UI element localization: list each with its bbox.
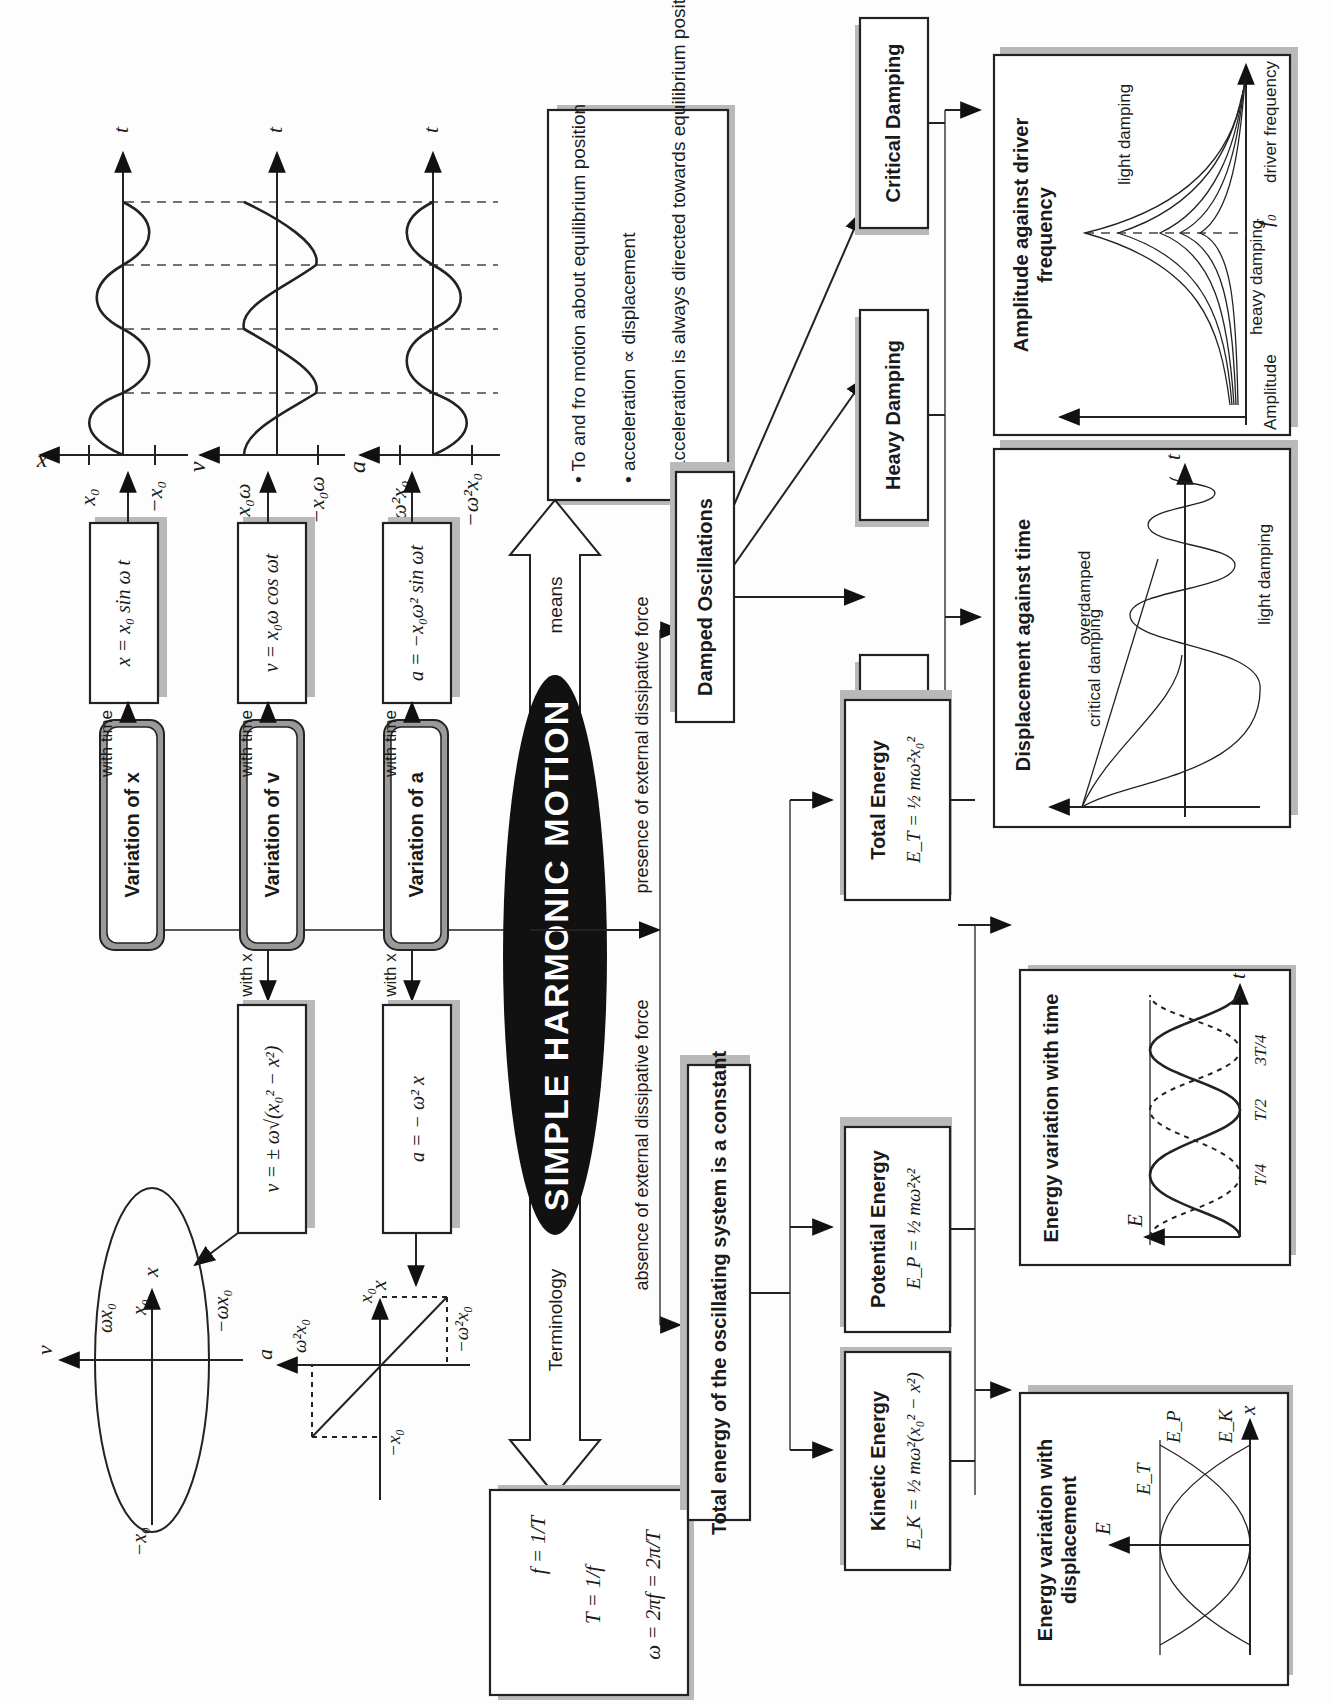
- a-axis-label: a: [344, 461, 370, 473]
- x-axis-label: x: [138, 1267, 163, 1278]
- svg-text:v = x₀ω cos ωt: v = x₀ω cos ωt: [260, 553, 282, 672]
- a-neg-label: −ω²x₀: [451, 1306, 472, 1353]
- terminology-label: Terminology: [545, 1268, 566, 1371]
- with-x-label: with x: [237, 953, 256, 998]
- variation-of-a-node[interactable]: Variation of a with time with x: [381, 703, 448, 1000]
- v-top-tick: x₀ω: [230, 484, 255, 518]
- light-damping-annotation: light damping: [1115, 84, 1134, 185]
- x-bottom-tick: −x₀: [142, 481, 167, 513]
- ep-label: E_P: [1163, 1410, 1184, 1444]
- displacement-vs-time-graph: Displacement against time t critical dam…: [994, 440, 1298, 827]
- shm-concept-map-page: x x₀ −x₀ t v x₀ω −x₀ω t a ω²x₀ −ω²x₀ t: [0, 0, 1331, 1705]
- variation-of-x-node[interactable]: Variation of x with time: [97, 703, 164, 950]
- svg-text:Variation of x: Variation of x: [121, 772, 143, 898]
- energy-vs-time-graph: Energy variation with time E t T/4 T/2 3…: [1020, 965, 1296, 1265]
- means-label: means: [545, 576, 566, 633]
- svg-text:Damped Oscillations: Damped Oscillations: [694, 498, 716, 696]
- svg-text:E_T = ½ mω²x₀²: E_T = ½ mω²x₀²: [903, 737, 924, 865]
- diagram-stage-rotated: x x₀ −x₀ t v x₀ω −x₀ω t a ω²x₀ −ω²x₀ t: [0, 0, 1331, 1705]
- potential-energy-box[interactable]: Potential Energy E_P = ½ mω²x²: [840, 1117, 952, 1332]
- a-bottom-tick: −ω²x₀: [458, 473, 483, 527]
- period-equation: T = 1/f: [581, 1563, 605, 1624]
- angular-frequency-equation: ω = 2πf = 2π/T: [641, 1529, 665, 1660]
- x-pos-label: x₀: [355, 1288, 376, 1304]
- tick-quarter-period: T/4: [1251, 1163, 1270, 1186]
- terminology-box: f = 1/T T = 1/f ω = 2πf = 2π/T: [490, 1485, 694, 1700]
- a-x-equation: a = − ω² x: [383, 1000, 460, 1285]
- a-vs-x-graph: x a x₀ −x₀ ω²x₀ −ω²x₀: [252, 1280, 472, 1500]
- with-time-label: with time: [381, 710, 400, 778]
- central-axis: Terminology means SIMPLE HARMONIC MOTION…: [503, 500, 680, 1495]
- x-neg-label: −x₀: [383, 1429, 404, 1457]
- energy-vs-displacement-graph: Energy variation with displacement E x E…: [1020, 1385, 1293, 1685]
- damped-oscillations-box[interactable]: Damped Oscillations: [670, 462, 734, 722]
- definition-box: • To and fro motion about equilibrium po…: [548, 0, 735, 505]
- absence-label: absence of external dissipative force: [632, 999, 652, 1290]
- svg-text:Total energy of the oscillatin: Total energy of the oscillating system i…: [708, 1051, 730, 1536]
- v-axis-label: v: [32, 1345, 57, 1355]
- heavy-damping-annotation: heavy damping: [1247, 220, 1266, 335]
- x-axis-label: x: [36, 446, 48, 472]
- graph-title-line2: frequency: [1034, 186, 1056, 282]
- v-x-equation: v = ± ω√(x₀² − x²): [195, 1000, 315, 1265]
- svg-text:x = x₀ sin ω t: x = x₀ sin ω t: [112, 559, 134, 667]
- graph-title-line1: Amplitude against driver: [1010, 118, 1032, 353]
- driver-frequency-axis-label: driver frequency: [1261, 61, 1280, 183]
- t-axis-label: t: [262, 126, 287, 133]
- graph-title: Energy variation with time: [1040, 994, 1062, 1243]
- presence-label: presence of external dissipative force: [632, 596, 652, 893]
- v-bottom-tick: −x₀ω: [304, 476, 329, 524]
- v-neg-label: −ωx₀: [210, 1290, 232, 1333]
- definition-bullet-3: • acceleration is always directed toward…: [668, 0, 689, 483]
- with-x-label: with x: [381, 953, 400, 998]
- tick-three-quarter-period: 3T/4: [1251, 1034, 1270, 1067]
- heavy-damping-box[interactable]: Heavy Damping: [855, 310, 929, 527]
- svg-text:a = − ω² x: a = − ω² x: [406, 1076, 428, 1162]
- with-time-label: with time: [237, 710, 256, 778]
- time-graphs: x x₀ −x₀ t v x₀ω −x₀ω t a ω²x₀ −ω²x₀ t: [36, 126, 500, 527]
- total-energy-box[interactable]: Total Energy E_T = ½ mω²x₀²: [840, 690, 952, 900]
- x-pos-label: x₀: [128, 1299, 150, 1316]
- frequency-equation: f = 1/T: [526, 1514, 550, 1574]
- svg-text:Variation of v: Variation of v: [261, 771, 283, 897]
- a-vs-t-graph: a ω²x₀ −ω²x₀ t: [344, 126, 500, 527]
- total-energy-constant-box: Total energy of the oscillating system i…: [680, 1051, 750, 1536]
- a-top-tick: ω²x₀: [386, 480, 411, 520]
- svg-text:v = ± ω√(x₀² − x²): v = ± ω√(x₀² − x²): [261, 1045, 284, 1192]
- et-label: E_T: [1133, 1462, 1154, 1496]
- t-axis-label: t: [1226, 972, 1250, 979]
- a-pos-label: ω²x₀: [289, 1319, 310, 1353]
- critical-damping-box[interactable]: Critical Damping: [855, 18, 929, 235]
- svg-text:E_P = ½ mω²x²: E_P = ½ mω²x²: [903, 1168, 924, 1290]
- svg-text:Critical Damping: Critical Damping: [882, 44, 904, 203]
- kinetic-energy-box[interactable]: Kinetic Energy E_K = ½ mω²(x₀² − x²): [840, 1347, 952, 1570]
- svg-text:Kinetic Energy: Kinetic Energy: [867, 1390, 889, 1531]
- svg-text:t: t: [1160, 453, 1185, 460]
- x-neg-label: −x₀: [128, 1527, 150, 1556]
- e-axis-label: E: [1123, 1214, 1147, 1228]
- overdamped-annotation: overdamped: [1075, 550, 1094, 645]
- v-pos-label: ωx₀: [94, 1303, 116, 1333]
- a-axis-label: a: [252, 1349, 277, 1360]
- v-vs-t-graph: v x₀ω −x₀ω t: [184, 126, 345, 524]
- ek-label: E_K: [1215, 1408, 1236, 1444]
- svg-text:Heavy Damping: Heavy Damping: [882, 340, 904, 490]
- v-vs-x-graph: x v x₀ −x₀ ωx₀ −ωx₀: [32, 1188, 243, 1556]
- damping-section: Damped Oscillations Light Damping Heavy …: [670, 18, 1298, 893]
- tick-half-period: T/2: [1251, 1098, 1270, 1121]
- x-vs-t-graph: x x₀ −x₀ t: [36, 126, 188, 513]
- svg-text:Total Energy: Total Energy: [867, 739, 889, 860]
- svg-text:E_K = ½ mω²(x₀² − x²): E_K = ½ mω²(x₀² − x²): [903, 1372, 925, 1551]
- x-top-tick: x₀: [75, 488, 100, 506]
- x-equation-boxes: v = ± ω√(x₀² − x²) a = − ω² x: [195, 1000, 460, 1285]
- variation-of-v-node[interactable]: Variation of v with time with x: [237, 703, 304, 1000]
- v-axis-label: v: [184, 461, 210, 472]
- svg-text:Potential Energy: Potential Energy: [867, 1149, 889, 1308]
- resonance-graph: Amplitude against driver frequency f₀ Am…: [994, 47, 1298, 435]
- svg-text:Variation of a: Variation of a: [405, 771, 427, 897]
- amplitude-axis-label: Amplitude: [1261, 354, 1280, 430]
- x-axis-label: x: [1236, 1405, 1260, 1416]
- graph-title-line1: Energy variation with: [1034, 1439, 1056, 1641]
- t-axis-label: t: [108, 126, 133, 133]
- t-axis-label: t: [418, 126, 443, 133]
